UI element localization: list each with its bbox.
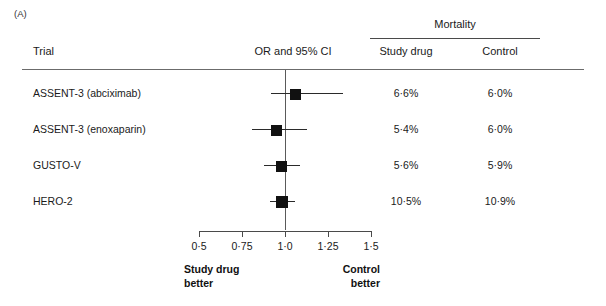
trial-name: HERO-2	[33, 195, 73, 207]
study-drug-value: 6·6%	[366, 87, 446, 99]
x-axis-tick-label: 1·0	[263, 240, 307, 252]
control-value: 10·9%	[460, 195, 540, 207]
study-drug-value: 5·4%	[366, 123, 446, 135]
axis-direction-left-line1: Study drug	[184, 262, 239, 276]
axis-direction-right-line2: better	[300, 276, 380, 290]
control-value: 6·0%	[460, 87, 540, 99]
header-rule	[22, 69, 584, 70]
confidence-interval-line	[271, 93, 343, 94]
axis-direction-left: Study drug better	[184, 262, 239, 290]
x-axis-tick-label: 0·5	[177, 240, 221, 252]
column-header-trial: Trial	[33, 45, 54, 57]
column-header-control: Control	[460, 45, 540, 57]
axis-direction-right-line1: Control	[300, 262, 380, 276]
x-axis-tick	[328, 231, 329, 237]
trial-name: ASSENT-3 (enoxaparin)	[33, 123, 146, 135]
control-value: 6·0%	[460, 123, 540, 135]
odds-ratio-marker	[290, 89, 301, 100]
study-drug-value: 5·6%	[366, 159, 446, 171]
panel-label: (A)	[14, 8, 27, 19]
x-axis-tick	[371, 231, 372, 237]
x-axis-tick-label: 1·5	[349, 240, 393, 252]
x-axis-tick	[285, 231, 286, 237]
forest-row: ASSENT-3 (abciximab)6·6%6·0%	[0, 85, 606, 103]
forest-row: HERO-210·5%10·9%	[0, 193, 606, 211]
odds-ratio-marker	[276, 161, 287, 172]
study-drug-value: 10·5%	[366, 195, 446, 207]
odds-ratio-marker	[271, 125, 282, 136]
axis-direction-left-line2: better	[184, 276, 239, 290]
control-value: 5·9%	[460, 159, 540, 171]
mortality-group-header: Mortality	[370, 18, 540, 30]
x-axis-tick-label: 1·25	[306, 240, 350, 252]
odds-ratio-marker	[276, 196, 288, 208]
forest-row: ASSENT-3 (enoxaparin)5·4%6·0%	[0, 121, 606, 139]
trial-name: GUSTO-V	[33, 159, 81, 171]
axis-direction-right: Control better	[300, 262, 380, 290]
x-axis-tick-label: 0·75	[220, 240, 264, 252]
trial-name: ASSENT-3 (abciximab)	[33, 87, 141, 99]
mortality-group-rule	[370, 38, 540, 39]
column-header-or: OR and 95% CI	[218, 45, 368, 57]
x-axis-tick	[242, 231, 243, 237]
column-header-study-drug: Study drug	[366, 45, 446, 57]
x-axis-tick	[199, 231, 200, 237]
forest-row: GUSTO-V5·6%5·9%	[0, 157, 606, 175]
